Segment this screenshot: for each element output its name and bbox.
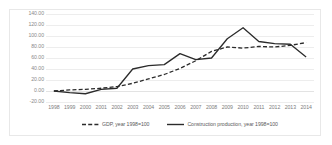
x-axis-tick-label: 2013 [282, 103, 298, 112]
x-axis-tick-label: 2003 [125, 103, 141, 112]
y-axis-tick-label: 80.00 [10, 44, 44, 49]
x-axis-tick-label: 2012 [267, 103, 283, 112]
y-axis-tick-label: -20.00 [10, 99, 44, 104]
x-axis-tick-label: 2014 [298, 103, 314, 112]
x-axis-tick-label: 2008 [204, 103, 220, 112]
x-axis: 1998199920002001200220032004200520062007… [46, 103, 314, 112]
y-axis-tick-label: 40.00 [10, 66, 44, 71]
y-axis-tick-label: 140.00 [10, 11, 44, 16]
x-axis-tick-label: 2010 [235, 103, 251, 112]
legend-item[interactable]: GDP, year 1998=100 [82, 121, 149, 127]
x-axis-tick-label: 2002 [109, 103, 125, 112]
chart-legend: GDP, year 1998=100Construction productio… [46, 118, 314, 130]
dashed-line-icon [82, 123, 99, 126]
x-axis-tick-label: 2007 [188, 103, 204, 112]
x-axis-tick-label: 2005 [156, 103, 172, 112]
y-axis-tick-label: 20.00 [10, 77, 44, 82]
chart-frame: 140.00120.00100.0080.0060.0040.0020.000.… [9, 9, 321, 136]
plot-area [46, 14, 314, 102]
x-axis-tick-label: 2004 [141, 103, 157, 112]
x-axis-tick-label: 1998 [46, 103, 62, 112]
x-axis-tick-label: 2001 [93, 103, 109, 112]
x-axis-tick-label: 2000 [78, 103, 94, 112]
series-lines [46, 14, 314, 102]
legend-item[interactable]: Construction production, year 1998=100 [167, 121, 278, 127]
y-axis: 140.00120.00100.0080.0060.0040.0020.000.… [10, 10, 44, 137]
chart-plot-wrapper: 140.00120.00100.0080.0060.0040.0020.000.… [10, 10, 322, 137]
series-line [54, 28, 306, 94]
y-axis-tick-label: 100.00 [10, 33, 44, 38]
y-axis-tick-label: 60.00 [10, 55, 44, 60]
x-axis-tick-label: 2006 [172, 103, 188, 112]
x-axis-tick-label: 2009 [219, 103, 235, 112]
solid-line-icon [167, 123, 184, 126]
y-axis-tick-label: 120.00 [10, 22, 44, 27]
y-axis-tick-label: 0.00 [10, 88, 44, 93]
x-axis-tick-label: 1999 [62, 103, 78, 112]
legend-label: Construction production, year 1998=100 [187, 121, 278, 127]
series-line [54, 43, 306, 91]
legend-label: GDP, year 1998=100 [102, 121, 149, 127]
x-axis-tick-label: 2011 [251, 103, 267, 112]
